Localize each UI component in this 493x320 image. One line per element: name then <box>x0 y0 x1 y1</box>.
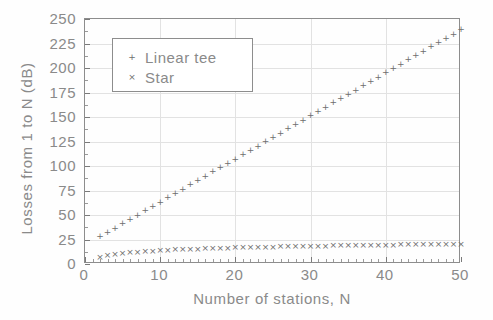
data-point-linear-tee: + <box>337 94 345 103</box>
legend-entry-linear-tee: + Linear tee <box>119 47 217 67</box>
x-axis-minor-tick <box>190 259 191 262</box>
y-axis-minor-tick <box>85 80 88 81</box>
x-axis-minor-tick <box>446 259 447 262</box>
y-axis-tick <box>85 19 90 20</box>
data-point-star: × <box>412 240 420 249</box>
x-axis-minor-tick <box>318 259 319 262</box>
plus-marker-icon: + <box>119 52 145 62</box>
data-point-star: × <box>194 244 202 253</box>
data-point-star: × <box>217 243 225 252</box>
data-point-linear-tee: + <box>382 68 390 77</box>
data-point-linear-tee: + <box>292 120 300 129</box>
data-point-star: × <box>179 245 187 254</box>
data-point-linear-tee: + <box>186 180 194 189</box>
x-axis-minor-tick <box>205 259 206 262</box>
data-point-star: × <box>224 243 232 252</box>
data-point-linear-tee: + <box>412 51 420 60</box>
cross-marker-icon: × <box>119 72 145 82</box>
data-point-linear-tee: + <box>217 163 225 172</box>
data-point-star: × <box>374 240 382 249</box>
x-axis-minor-tick <box>348 259 349 262</box>
data-point-linear-tee: + <box>111 223 119 232</box>
x-axis-tick-label: 40 <box>376 266 394 283</box>
x-axis-minor-tick <box>153 259 154 262</box>
x-axis-tick <box>311 257 312 262</box>
x-axis-minor-tick <box>416 259 417 262</box>
data-point-linear-tee: + <box>329 98 337 107</box>
y-axis-tick <box>85 44 90 45</box>
data-point-linear-tee: + <box>104 227 112 236</box>
data-point-linear-tee: + <box>299 115 307 124</box>
data-point-linear-tee: + <box>397 59 405 68</box>
data-point-star: × <box>397 240 405 249</box>
data-point-star: × <box>382 240 390 249</box>
data-point-linear-tee: + <box>232 154 240 163</box>
data-point-linear-tee: + <box>352 85 360 94</box>
x-axis-minor-tick <box>138 259 139 262</box>
x-axis-minor-tick <box>363 259 364 262</box>
x-axis-minor-tick <box>228 259 229 262</box>
x-axis-minor-tick <box>333 259 334 262</box>
data-point-linear-tee: + <box>171 189 179 198</box>
x-axis-minor-tick <box>273 259 274 262</box>
x-axis-minor-tick <box>115 259 116 262</box>
data-point-linear-tee: + <box>427 42 435 51</box>
x-axis-tick-label: 10 <box>150 266 168 283</box>
data-point-star: × <box>156 246 164 255</box>
gridline-horizontal <box>85 166 459 167</box>
data-point-star: × <box>457 239 465 248</box>
data-point-star: × <box>104 251 112 260</box>
data-point-linear-tee: + <box>194 176 202 185</box>
x-axis-tick-label: 20 <box>226 266 244 283</box>
data-point-linear-tee: + <box>269 132 277 141</box>
data-point-star: × <box>405 240 413 249</box>
data-point-star: × <box>359 240 367 249</box>
y-axis-tick <box>85 117 90 118</box>
x-axis-minor-tick <box>168 259 169 262</box>
data-point-linear-tee: + <box>254 141 262 150</box>
x-axis-minor-tick <box>123 259 124 262</box>
y-axis-minor-tick <box>85 31 88 32</box>
legend: + Linear tee × Star <box>112 38 253 92</box>
data-point-star: × <box>269 242 277 251</box>
gridline-vertical <box>311 19 312 262</box>
legend-entry-star: × Star <box>119 67 175 87</box>
x-axis-minor-tick <box>431 259 432 262</box>
data-point-linear-tee: + <box>442 33 450 42</box>
gridline-horizontal <box>85 191 459 192</box>
data-point-linear-tee: + <box>307 111 315 120</box>
data-point-linear-tee: + <box>277 128 285 137</box>
y-axis-minor-tick <box>85 178 88 179</box>
data-point-linear-tee: + <box>224 158 232 167</box>
data-point-star: × <box>307 241 315 250</box>
data-point-linear-tee: + <box>405 55 413 64</box>
x-axis-minor-tick <box>453 259 454 262</box>
y-axis-minor-tick <box>85 252 88 253</box>
data-point-linear-tee: + <box>96 232 104 241</box>
data-point-linear-tee: + <box>239 150 247 159</box>
data-point-linear-tee: + <box>179 184 187 193</box>
data-point-star: × <box>420 240 428 249</box>
data-point-linear-tee: + <box>367 76 375 85</box>
x-axis-minor-tick <box>130 259 131 262</box>
x-axis-minor-tick <box>93 259 94 262</box>
data-point-linear-tee: + <box>126 214 134 223</box>
x-axis-minor-tick <box>198 259 199 262</box>
data-point-star: × <box>277 242 285 251</box>
x-axis-tick <box>235 257 236 262</box>
data-point-linear-tee: + <box>141 206 149 215</box>
x-axis-minor-tick <box>371 259 372 262</box>
x-axis-minor-tick <box>378 259 379 262</box>
data-point-linear-tee: + <box>359 81 367 90</box>
data-point-star: × <box>239 243 247 252</box>
x-axis-minor-tick <box>356 259 357 262</box>
data-point-linear-tee: + <box>119 219 127 228</box>
x-axis-tick <box>85 257 86 262</box>
data-point-star: × <box>284 242 292 251</box>
x-axis-minor-tick <box>183 259 184 262</box>
x-axis-minor-tick <box>341 259 342 262</box>
y-axis-tick <box>85 240 90 241</box>
data-point-linear-tee: + <box>450 29 458 38</box>
x-axis-tick <box>160 257 161 262</box>
x-axis-minor-tick <box>438 259 439 262</box>
